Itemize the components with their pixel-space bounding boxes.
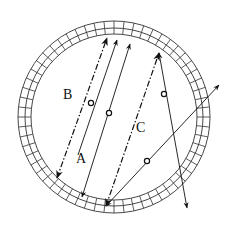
diagram-canvas: B A C bbox=[0, 0, 232, 237]
node-marker-icon bbox=[106, 110, 111, 115]
path-c-dashdot bbox=[106, 53, 159, 206]
label-b: B bbox=[63, 88, 72, 102]
node-marker-icon bbox=[161, 91, 166, 96]
label-a: A bbox=[76, 152, 86, 166]
path-a bbox=[82, 44, 130, 197]
path-b-solid bbox=[78, 40, 117, 155]
node-marker-icon bbox=[144, 158, 149, 163]
node-marker-icon bbox=[88, 100, 93, 105]
ring-diagram bbox=[0, 0, 232, 237]
label-c: C bbox=[136, 121, 145, 135]
